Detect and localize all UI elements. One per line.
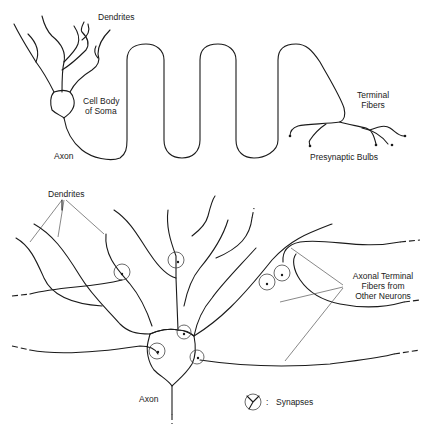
bottom-dendrites-label: Dendrites: [48, 189, 84, 199]
top-terminal-fibers: [289, 122, 407, 147]
cell-body-label-line1: Cell Body: [83, 96, 119, 106]
legend-label: Synapses: [276, 397, 313, 407]
bottom-neuron: [12, 196, 420, 424]
axonal-terminal-label-line2: Fibers from: [346, 281, 420, 291]
terminal-fibers-label-line2: Fibers: [353, 100, 393, 110]
axonal-terminal-label-line3: Other Neurons: [346, 291, 420, 301]
neuron-diagram: [0, 0, 426, 436]
dendrites-leader-lines: [30, 200, 104, 242]
legend-separator: :: [266, 397, 268, 407]
top-soma: [51, 91, 74, 119]
bottom-dendrites: [16, 196, 332, 336]
bottom-axon-label: Axon: [139, 394, 158, 404]
top-dendrites: [14, 16, 110, 92]
presynaptic-bulbs-label: Presynaptic Bulbs: [310, 152, 378, 162]
axonal-terminal-label-line1: Axonal Terminal: [346, 271, 420, 281]
terminal-fibers-label-line1: Terminal: [353, 90, 393, 100]
top-dendrites-label: Dendrites: [98, 12, 134, 22]
cell-body-label-line2: of Soma: [85, 106, 117, 116]
axonal-terminal-leader-lines: [280, 248, 343, 361]
top-axon-label: Axon: [54, 151, 73, 161]
top-neuron: [14, 16, 406, 160]
synapse-markers: [114, 252, 290, 364]
legend-synapse-icon: [245, 394, 261, 410]
